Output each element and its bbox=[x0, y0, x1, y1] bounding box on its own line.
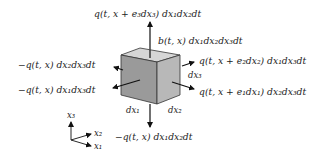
right-flux-e1-label: q(t, x + e₁dx₁) dx₂dx₃dt bbox=[199, 86, 306, 97]
source-term-label: b(t, x) dx₁dx₂dx₃dt bbox=[158, 35, 243, 46]
right-flux-arrow-upper bbox=[182, 62, 194, 66]
axis-x2-label: x₂ bbox=[94, 128, 102, 139]
right-flux-e2-label: q(t, x + e₂dx₂) dx₁dx₃dt bbox=[199, 55, 306, 66]
axis-x2-arrow bbox=[71, 134, 91, 140]
volume-element-diagram: q(t, x + e₃dx₃) dx₁dx₂dt b(t, x) dx₁dx₂d… bbox=[0, 0, 327, 162]
cube-front-face bbox=[121, 55, 157, 104]
edge-dx2-label: dx₂ bbox=[168, 105, 182, 116]
left-flux-lower-label: −q(t, x) dx₁dx₃dt bbox=[18, 84, 95, 95]
axis-x1-label: x₁ bbox=[94, 141, 102, 152]
left-flux-upper-label: −q(t, x) dx₂dx₃dt bbox=[18, 59, 95, 70]
edge-dx3-label: dx₃ bbox=[188, 70, 202, 81]
axis-x1-arrow bbox=[71, 140, 91, 146]
cube-right-face bbox=[157, 55, 180, 104]
axis-x3-label: x₃ bbox=[67, 110, 75, 121]
edge-dx1-label: dx₁ bbox=[126, 105, 140, 116]
top-flux-label: q(t, x + e₃dx₃) dx₁dx₂dt bbox=[94, 8, 201, 19]
bottom-flux-label: −q(t, x) dx₁dx₂dt bbox=[115, 131, 192, 142]
